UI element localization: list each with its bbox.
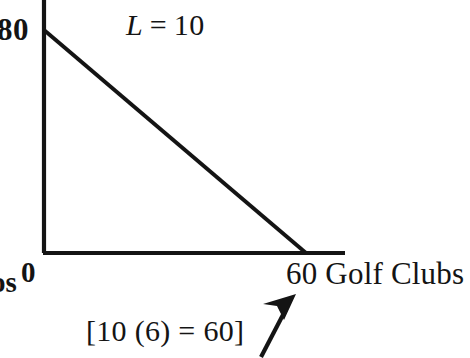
- origin-label: 0: [21, 258, 36, 287]
- curve-label-value: 10: [174, 8, 205, 41]
- plot-canvas: [0, 0, 470, 358]
- ppf-curve: [44, 30, 306, 253]
- annotation-arrow-head: [263, 294, 296, 320]
- curve-label-variable: L: [126, 8, 143, 41]
- ppf-figure: 80 L = 10 os 0 60 Golf Clubs [10 (6) = 6…: [0, 0, 470, 358]
- y-axis-title-fragment: os: [0, 268, 17, 297]
- curve-label-equals: =: [143, 8, 173, 41]
- x-axis-label: 60 Golf Clubs: [286, 258, 464, 289]
- calculation-annotation: [10 (6) = 60]: [86, 316, 244, 346]
- y-axis-tick-label-80: 80: [0, 14, 29, 45]
- ppf-curve-label: L = 10: [126, 10, 205, 40]
